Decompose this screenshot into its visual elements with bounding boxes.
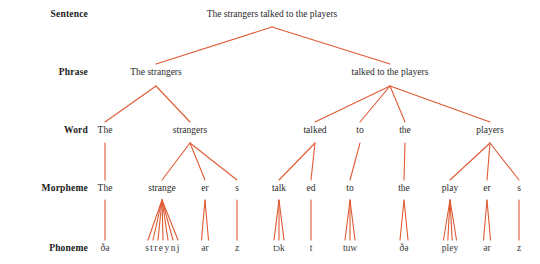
- tree-branch: [274, 200, 279, 240]
- morpheme-node: play: [442, 183, 458, 193]
- tree-branch: [202, 200, 206, 240]
- phrase-node: talked to the players: [352, 67, 429, 77]
- tree-branch: [345, 200, 350, 240]
- phoneme-node: streynj: [145, 243, 181, 253]
- tree-branch: [350, 143, 360, 180]
- tree-branch: [162, 200, 178, 240]
- phoneme-node: z: [235, 243, 239, 253]
- tree-branch: [105, 86, 156, 122]
- word-node: talked: [303, 125, 326, 135]
- tree-branch: [484, 200, 488, 240]
- tree-branch: [404, 200, 408, 240]
- tree-branch: [279, 200, 284, 240]
- row-label-phrase: Phrase: [0, 67, 88, 77]
- word-node: the: [399, 125, 411, 135]
- word-node: The: [98, 125, 113, 135]
- morpheme-node: to: [346, 183, 353, 193]
- tree-branch: [390, 86, 490, 122]
- tree-branch: [205, 200, 209, 240]
- tree-branch: [279, 143, 315, 180]
- morpheme-node: s: [517, 183, 521, 193]
- tree-branch: [360, 86, 390, 122]
- morpheme-node: the: [398, 183, 410, 193]
- tree-branch: [311, 143, 315, 180]
- tree-branch: [350, 200, 355, 240]
- phoneme-node: tɔk: [273, 243, 285, 253]
- morpheme-node: s: [235, 183, 239, 193]
- tree-branch: [404, 143, 405, 180]
- tree-branch: [450, 143, 490, 180]
- phrase-node: The strangers: [130, 67, 181, 77]
- tree-branch: [272, 27, 390, 64]
- tree-branch: [162, 143, 190, 180]
- morpheme-node: er: [483, 183, 490, 193]
- linguistic-tree-diagram: SentencePhraseWordMorphemePhoneme The st…: [0, 0, 540, 264]
- tree-branch: [156, 27, 272, 64]
- tree-branch: [400, 200, 404, 240]
- word-node: strangers: [173, 125, 207, 135]
- tree-branch: [156, 86, 190, 122]
- tree-branch: [315, 86, 390, 122]
- morpheme-node: strange: [148, 183, 175, 193]
- tree-branch: [487, 200, 491, 240]
- row-label-phoneme: Phoneme: [0, 243, 88, 253]
- phoneme-node: t: [310, 243, 313, 253]
- tree-branch: [390, 86, 405, 122]
- sentence-node: The strangers talked to the players: [207, 9, 338, 19]
- morpheme-node: The: [98, 183, 113, 193]
- phoneme-node: ər: [483, 243, 490, 253]
- word-node: to: [356, 125, 363, 135]
- phoneme-node: ər: [201, 243, 208, 253]
- tree-branch: [153, 200, 162, 240]
- row-label-morpheme: Morpheme: [0, 183, 88, 193]
- morpheme-node: talk: [272, 183, 286, 193]
- tree-branch: [490, 143, 519, 180]
- morpheme-node: ed: [307, 183, 316, 193]
- phoneme-node: pley: [442, 243, 458, 253]
- phoneme-node: tuw: [343, 243, 357, 253]
- tree-branch: [487, 143, 490, 180]
- morpheme-node: er: [201, 183, 208, 193]
- row-label-sentence: Sentence: [0, 9, 88, 19]
- row-label-word: Word: [0, 125, 88, 135]
- phoneme-node: ðə: [101, 243, 110, 253]
- word-node: players: [476, 125, 503, 135]
- phoneme-node: ðə: [400, 243, 409, 253]
- phoneme-node: z: [517, 243, 521, 253]
